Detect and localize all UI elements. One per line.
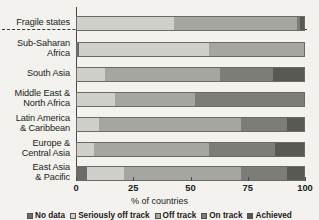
bar-segment	[99, 117, 241, 132]
y-axis-label: Fragile states	[0, 18, 70, 28]
bar-segment	[287, 117, 305, 132]
x-axis-tick	[305, 177, 306, 181]
bar-segment	[174, 16, 297, 31]
y-axis-label: South Asia	[0, 69, 70, 79]
bar-row	[76, 42, 305, 57]
legend-label: No data	[35, 211, 65, 220]
legend-item[interactable]: Seriously off track	[70, 211, 149, 220]
x-axis-tick-label: 25	[128, 182, 138, 193]
chart-legend: No dataSeriously off trackOff trackOn tr…	[0, 211, 319, 220]
x-axis-title: % of countries	[0, 196, 319, 206]
y-axis-label: East Asia& Pacific	[0, 163, 70, 182]
legend-swatch-icon	[201, 213, 207, 219]
x-axis-tick	[133, 177, 134, 181]
bar-segment	[76, 92, 115, 107]
bar-segment	[105, 67, 221, 82]
bar-segment	[79, 42, 208, 57]
legend-item[interactable]: No data	[27, 211, 65, 220]
bar-segment	[300, 16, 305, 31]
bar-segment	[209, 142, 275, 157]
x-axis-tick	[76, 177, 77, 181]
bar-segment	[76, 117, 99, 132]
bar-segment	[76, 142, 94, 157]
legend-item[interactable]: On track	[201, 211, 242, 220]
y-axis-label: Middle East &North Africa	[0, 89, 70, 108]
legend-label: Achieved	[255, 211, 291, 220]
bar-row	[76, 16, 305, 31]
legend-swatch-icon	[247, 213, 253, 219]
stacked-bar-chart: Fragile statesSub-SaharanAfricaSouth Asi…	[0, 0, 319, 220]
y-axis-label: Sub-SaharanAfrica	[0, 39, 70, 58]
legend-label: On track	[209, 211, 242, 220]
legend-swatch-icon	[70, 213, 76, 219]
bar-segment	[195, 92, 305, 107]
legend-label: Off track	[163, 211, 197, 220]
bar-segment	[241, 117, 287, 132]
bar-row	[76, 92, 305, 107]
bar-segment	[209, 42, 305, 57]
y-axis-label: Europe &Central Asia	[0, 139, 70, 158]
legend-swatch-icon	[155, 213, 161, 219]
bar-segment	[275, 142, 305, 157]
x-axis: 0255075100	[76, 177, 305, 195]
bar-row	[76, 67, 305, 82]
bar-segment	[94, 142, 209, 157]
x-axis-tick	[248, 177, 249, 181]
bar-segment	[76, 16, 174, 31]
plot-area	[76, 7, 305, 177]
legend-item[interactable]: Off track	[155, 211, 197, 220]
bar-segment	[115, 92, 195, 107]
bar-row	[76, 117, 305, 132]
bar-row	[76, 142, 305, 157]
legend-label: Seriously off track	[78, 211, 149, 220]
y-axis-label: Latin America& Caribbean	[0, 114, 70, 133]
legend-item[interactable]: Achieved	[247, 211, 291, 220]
bar-segment	[76, 67, 105, 82]
legend-swatch-icon	[27, 213, 33, 219]
x-axis-tick-label: 100	[297, 182, 313, 193]
bar-segment	[273, 67, 305, 82]
x-axis-tick-label: 0	[73, 182, 78, 193]
y-axis-labels: Fragile statesSub-SaharanAfricaSouth Asi…	[0, 7, 73, 177]
x-axis-tick	[191, 177, 192, 181]
x-axis-tick-label: 75	[243, 182, 253, 193]
x-axis-tick-label: 50	[185, 182, 195, 193]
bar-segment	[220, 67, 273, 82]
